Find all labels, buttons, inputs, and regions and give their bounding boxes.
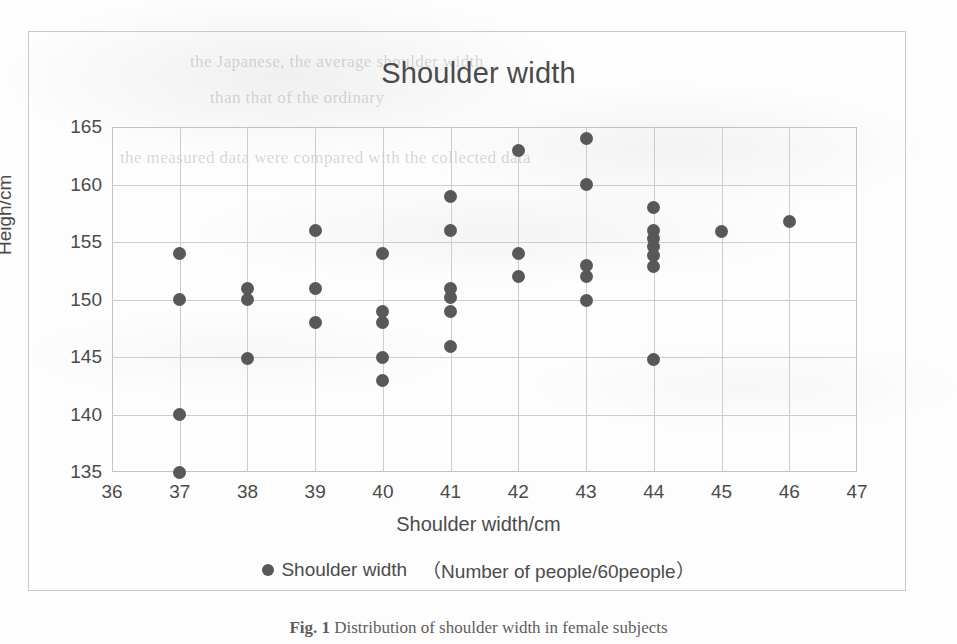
gridline-vertical	[518, 127, 519, 472]
x-axis-tick-label: 38	[217, 481, 277, 503]
scatter-point	[376, 374, 389, 387]
gridline-horizontal	[112, 415, 857, 416]
y-axis-tick-labels: 135140145150155160165	[50, 127, 102, 472]
x-axis-tick-label: 45	[692, 481, 752, 503]
scatter-point	[444, 291, 457, 304]
gridline-horizontal	[112, 300, 857, 301]
x-axis-tick-label: 40	[353, 481, 413, 503]
x-axis-tick-label: 43	[556, 481, 616, 503]
scatter-point	[309, 224, 322, 237]
legend-note: （Number of people/60people）	[422, 556, 695, 583]
gridline-vertical	[722, 127, 723, 472]
scatter-point	[241, 352, 254, 365]
x-axis-tick-label: 47	[827, 481, 887, 503]
gridline-vertical	[789, 127, 790, 472]
plot-wrapper	[112, 127, 857, 472]
legend-series-label: Shoulder width	[281, 559, 407, 581]
gridline-vertical	[315, 127, 316, 472]
figure-caption: Fig. 1 Distribution of shoulder width in…	[0, 618, 957, 638]
scatter-point	[376, 351, 389, 364]
x-axis-tick-label: 39	[285, 481, 345, 503]
y-axis-tick-label: 145	[56, 346, 102, 368]
x-axis-tick-label: 44	[624, 481, 684, 503]
scatter-point	[241, 293, 254, 306]
scatter-point	[580, 178, 593, 191]
scatter-point	[444, 305, 457, 318]
y-axis-tick-label: 135	[56, 461, 102, 483]
y-axis-tick-label: 160	[56, 174, 102, 196]
scatter-point	[173, 466, 186, 479]
chart-legend: Shoulder width （Number of people/60peopl…	[0, 556, 957, 583]
x-axis-tick-label: 41	[421, 481, 481, 503]
gridline-horizontal	[112, 357, 857, 358]
scatter-point	[580, 294, 593, 307]
scatter-point	[444, 190, 457, 203]
y-axis-title: Heigh/cm	[0, 175, 16, 255]
x-axis-tick-labels: 363738394041424344454647	[112, 481, 857, 507]
scatter-point	[309, 282, 322, 295]
scatter-point	[512, 144, 525, 157]
x-axis-tick-label: 42	[488, 481, 548, 503]
figure-caption-label: Fig. 1	[289, 618, 330, 637]
figure-caption-text: Distribution of shoulder width in female…	[334, 618, 667, 637]
x-axis-tick-label: 46	[759, 481, 819, 503]
scatter-point	[580, 270, 593, 283]
gridline-vertical	[383, 127, 384, 472]
y-axis-tick-label: 155	[56, 231, 102, 253]
y-axis-tick-label: 140	[56, 404, 102, 426]
gridline-horizontal	[112, 242, 857, 243]
gridline-horizontal	[112, 185, 857, 186]
legend-dot-marker	[262, 564, 274, 576]
scatter-point	[783, 215, 796, 228]
y-axis-tick-label: 165	[56, 116, 102, 138]
scatter-point	[647, 260, 660, 273]
scatter-point	[512, 270, 525, 283]
scatter-point	[580, 132, 593, 145]
y-axis-tick-label: 150	[56, 289, 102, 311]
scatter-point	[512, 247, 525, 260]
x-axis-tick-label: 37	[150, 481, 210, 503]
chart-title: Shoulder width	[0, 57, 957, 90]
x-axis-title: Shoulder width/cm	[0, 513, 957, 536]
x-axis-tick-label: 36	[82, 481, 142, 503]
scatter-point	[309, 316, 322, 329]
gridline-vertical	[654, 127, 655, 472]
